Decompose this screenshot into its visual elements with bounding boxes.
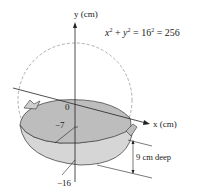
tick-label-0: 0	[65, 103, 70, 112]
circle-equation: x2 + y2 = 162 = 256	[105, 27, 180, 38]
eq-16: = 16	[131, 27, 152, 38]
y-axis-arrow	[73, 22, 77, 28]
x-axis-label: x (cm)	[153, 120, 177, 129]
eq-256: = 256	[154, 27, 180, 38]
depth-guide-bottom	[97, 165, 152, 178]
depth-guide-top	[128, 140, 152, 146]
tick-label-minus16: −16	[57, 179, 71, 188]
depth-arrow-top	[132, 140, 135, 144]
depth-label: 9 cm deep	[136, 153, 171, 162]
y-axis-label: y (cm)	[74, 10, 98, 19]
tick-label-minus7: −7	[55, 121, 65, 130]
eq-plus: +	[112, 27, 123, 38]
x-axis-arrow	[143, 120, 150, 125]
wok-diagram: y (cm) x (cm) x2 + y2 = 162 = 256 0 −7 −…	[0, 0, 200, 193]
